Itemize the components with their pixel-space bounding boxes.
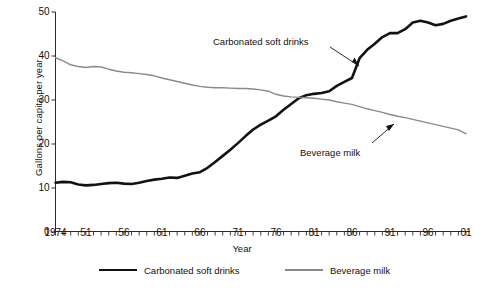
x-tick-label: 91 [384,228,395,238]
annotation-arrows [330,47,394,143]
annotation-carbonated-soft-drinks: Carbonated soft drinks [213,36,309,47]
x-tick-label: 81 [308,228,319,238]
y-tick-label: 50 [16,7,50,17]
legend-item-beverage-milk: Beverage milk [285,262,390,278]
chart-figure: Gallons per capita per year Year 0102030… [0,0,484,292]
x-tick-label: 71 [232,228,243,238]
y-tick-label: 20 [16,139,50,149]
x-tick-label: 96 [422,228,433,238]
y-tick-label: 40 [16,51,50,61]
legend-item-carbonated-soft-drinks: Carbonated soft drinks [99,262,240,278]
y-tick-marks [52,12,56,232]
x-tick-label: 51 [80,228,91,238]
series-line-beverage-milk [56,58,467,134]
legend-swatch-carbonated-soft-drinks [99,269,137,272]
x-tick-label: 86 [346,228,357,238]
x-tick-marks [56,232,467,236]
x-tick-label: 1974 [44,228,66,238]
x-tick-label: 01 [460,228,471,238]
legend-swatch-beverage-milk [285,269,323,270]
legend-label-beverage-milk: Beverage milk [330,265,390,276]
legend-label-carbonated-soft-drinks: Carbonated soft drinks [144,265,240,276]
x-tick-label: 56 [118,228,129,238]
x-tick-label: 66 [194,228,205,238]
annotation-beverage-milk: Beverage milk [300,147,360,158]
y-tick-label: 30 [16,95,50,105]
chart-legend: Carbonated soft drinks Beverage milk [0,262,484,282]
x-tick-label: 61 [156,228,167,238]
y-tick-label: 10 [16,183,50,193]
x-tick-label: 76 [270,228,281,238]
x-axis-title: Year [0,243,484,254]
